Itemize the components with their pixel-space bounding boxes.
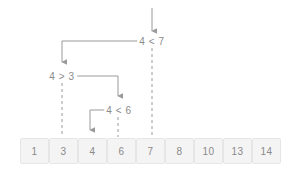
array-cell: 1 bbox=[20, 138, 49, 164]
comparison-label-step-3: 4 < 6 bbox=[104, 105, 134, 116]
array-cell: 3 bbox=[49, 138, 78, 164]
branch-step-1-to-2 bbox=[62, 41, 138, 62]
comparison-label-step-2: 4 > 3 bbox=[47, 71, 77, 82]
array-cell: 10 bbox=[194, 138, 223, 164]
array-cell: 4 bbox=[78, 138, 107, 164]
branch-step-2-to-3 bbox=[76, 76, 118, 96]
array-cell: 8 bbox=[165, 138, 194, 164]
array-cell: 13 bbox=[223, 138, 252, 164]
binary-search-diagram: 4 < 7 4 > 3 4 < 6 134678101314 bbox=[0, 0, 303, 173]
array-cell: 7 bbox=[136, 138, 165, 164]
array-cell: 6 bbox=[107, 138, 136, 164]
array-cell: 14 bbox=[252, 138, 281, 164]
comparison-label-step-1: 4 < 7 bbox=[137, 36, 167, 47]
